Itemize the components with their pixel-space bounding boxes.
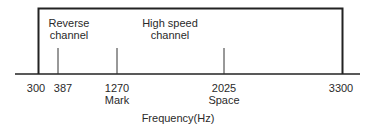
tick-label-300: 300 (27, 82, 45, 94)
region-label-line2: channel (49, 29, 90, 41)
tick-value: 1270 (105, 82, 129, 94)
tick-sublabel-mark: Mark (105, 94, 129, 106)
tick-label-2025: 2025 Space (208, 82, 239, 106)
tick-label-1270: 1270 Mark (105, 82, 129, 106)
region-label-line1: High speed (142, 17, 198, 29)
tick-label-387: 387 (54, 82, 72, 94)
tick-value: 2025 (208, 82, 239, 94)
region-label-line2: channel (142, 29, 198, 41)
region-label-line1: Reverse (49, 17, 90, 29)
region-label-reverse-channel: Reverse channel (49, 17, 90, 41)
tick-sublabel-space: Space (208, 94, 239, 106)
region-label-high-speed-channel: High speed channel (142, 17, 198, 41)
axis-label-frequency: Frequency(Hz) (142, 112, 215, 124)
tick-label-3300: 3300 (329, 82, 353, 94)
